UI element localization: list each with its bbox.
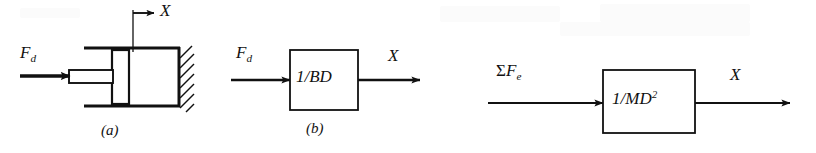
panel-a-dashpot <box>20 10 194 112</box>
transfer-function-label-b: 1/BD <box>296 68 332 85</box>
transfer-function-label-c: 1/MD2 <box>612 90 657 107</box>
panel-caption-b: (b) <box>306 121 324 136</box>
output-label-c: X <box>730 66 740 83</box>
figure-linework <box>0 0 816 153</box>
figure-root: Fd X (a) Fd 1/BD X (b) ΣFe 1/MD2 X <box>0 0 816 153</box>
displacement-label-a: X <box>160 2 170 19</box>
piston <box>112 50 129 104</box>
force-label-a: Fd <box>20 44 36 64</box>
panel-caption-a: (a) <box>101 123 119 138</box>
sum-forces-label-c: ΣFe <box>496 62 522 82</box>
force-label-b: Fd <box>236 44 252 64</box>
piston-rod <box>69 70 113 83</box>
fixed-wall-hatching <box>180 46 194 112</box>
output-label-b: X <box>388 47 398 64</box>
